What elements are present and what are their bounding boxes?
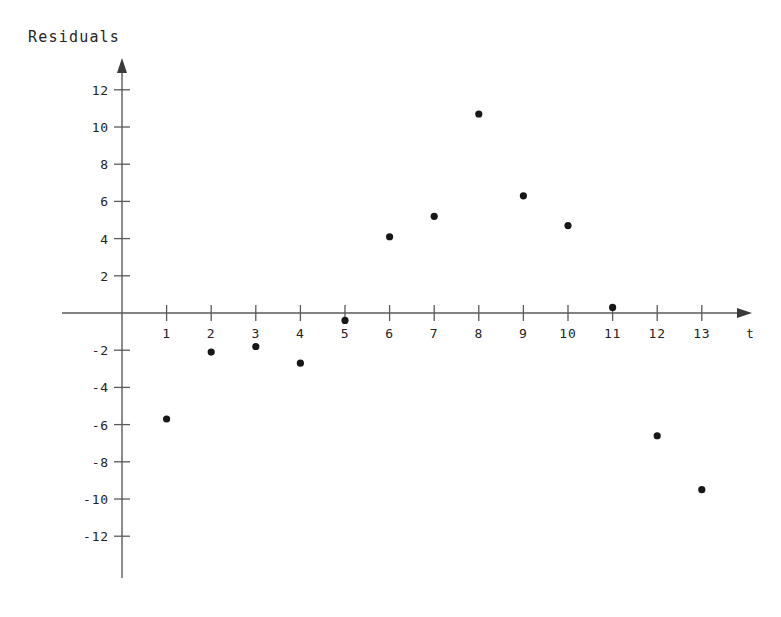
y-tick-label: 10: [92, 120, 109, 135]
y-tick-label: 6: [100, 194, 109, 209]
plot-canvas: [0, 0, 781, 617]
y-tick-label: -2: [92, 343, 109, 358]
x-tick-label: 9: [519, 326, 528, 341]
data-point: [386, 233, 393, 240]
x-tick-label: 11: [604, 326, 621, 341]
data-point: [520, 192, 527, 199]
data-point: [341, 317, 348, 324]
data-point: [609, 304, 616, 311]
data-point: [208, 348, 215, 355]
x-tick-label: 2: [207, 326, 216, 341]
y-axis-arrow: [117, 58, 127, 73]
y-tick-label: -10: [83, 492, 109, 507]
x-tick-label: 10: [559, 326, 576, 341]
axes-group: [62, 58, 752, 578]
x-tick-label: 5: [341, 326, 350, 341]
y-tick-label: 4: [100, 231, 109, 246]
data-point: [163, 415, 170, 422]
x-tick-label: 7: [430, 326, 439, 341]
data-point: [654, 432, 661, 439]
y-tick-label: 2: [100, 268, 109, 283]
y-tick-label: 8: [100, 157, 109, 172]
data-point: [431, 213, 438, 220]
y-tick-label: -4: [92, 380, 109, 395]
x-tick-label: 3: [251, 326, 260, 341]
scatter-plot-figure: Residuals 12345678910111213-12-10-8-6-4-…: [0, 0, 781, 617]
x-axis-arrow: [737, 308, 752, 318]
y-tick-label: -12: [83, 529, 109, 544]
x-tick-label: 12: [649, 326, 666, 341]
data-point: [252, 343, 259, 350]
data-point: [297, 360, 304, 367]
y-tick-label: -8: [92, 454, 109, 469]
x-tick-label: 13: [693, 326, 710, 341]
y-tick-label: -6: [92, 417, 109, 432]
data-point: [475, 110, 482, 117]
data-points-group: [163, 110, 705, 493]
x-axis-label: t: [746, 326, 755, 341]
x-tick-label: 4: [296, 326, 305, 341]
x-tick-label: 8: [474, 326, 483, 341]
y-tick-label: 12: [92, 82, 109, 97]
data-point: [564, 222, 571, 229]
x-tick-label: 6: [385, 326, 394, 341]
data-point: [698, 486, 705, 493]
x-tick-label: 1: [162, 326, 171, 341]
